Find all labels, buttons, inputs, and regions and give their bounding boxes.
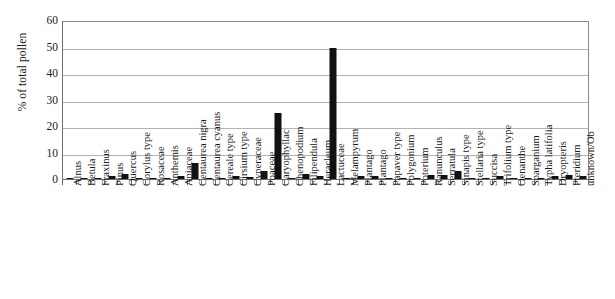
x-axis-label: Cereale type: [225, 133, 236, 186]
x-axis-label: Plantago: [378, 149, 389, 186]
x-axis-label: Polygonium: [406, 135, 417, 186]
x-axis-label: Poaceae: [267, 152, 278, 186]
x-axis-label: Succisa: [489, 154, 500, 186]
x-axis-label: Cyperaceae: [253, 137, 264, 186]
x-axis-label: Sparganium: [531, 135, 542, 186]
y-tick-label: 60: [30, 15, 58, 27]
y-tick-label: 20: [30, 121, 58, 133]
x-axis-label: Fraxinus: [101, 149, 112, 186]
y-tick-label: 40: [30, 68, 58, 80]
y-tick-label: 50: [30, 42, 58, 54]
x-axis-label: Quercus: [128, 151, 139, 186]
x-axis-label: Lactuceae: [336, 143, 347, 186]
y-tick-label: 0: [30, 174, 58, 186]
x-axis-label: Pteridium: [572, 145, 583, 186]
x-axis-label: unknown/Ob: [586, 131, 597, 186]
bar-slot: [77, 22, 91, 179]
y-tick-label: 10: [30, 148, 58, 160]
x-axis-label: Dryopteris: [558, 141, 569, 186]
x-axis-label: Stellaria type: [475, 130, 486, 186]
x-axis-label: Melampyrum: [350, 129, 361, 186]
x-axis-label: Ranunculus: [434, 136, 445, 186]
x-axis-label: Filipendula: [309, 138, 320, 186]
x-axis-label: Alnus: [73, 161, 84, 186]
x-axis-label: Typha latifolia: [544, 125, 555, 186]
x-axis-label: Centaurea cyanus: [212, 112, 223, 186]
x-axis-category-labels: AlnusBetulaFraxinusPinusQuercusCorylus t…: [62, 186, 589, 296]
pollen-percentage-bar-chart: % of total pollen 6050403020100 AlnusBet…: [0, 0, 615, 299]
x-axis-label: Plantago: [364, 149, 375, 186]
x-axis-label: Corylus type: [142, 132, 153, 186]
x-axis-label: Betula: [87, 159, 98, 186]
y-axis-tick-labels: 6050403020100: [30, 21, 58, 180]
x-axis-label: Centaurea nigra: [198, 119, 209, 186]
x-axis-label: Anthemis: [170, 145, 181, 186]
x-axis-label: Serratula: [447, 148, 458, 186]
bar-slot: [63, 22, 77, 179]
x-axis-label: Pinus: [115, 163, 126, 186]
x-axis-label: Caryophyllac: [281, 129, 292, 186]
x-axis-label: Oenanthe: [517, 146, 528, 186]
x-axis-label: Trifolium type: [503, 125, 514, 186]
x-axis-label: Sinapis type: [461, 134, 472, 186]
x-axis-label: Poterium: [420, 148, 431, 187]
x-axis-label: Rosaceae: [156, 146, 167, 186]
x-axis-label: Chenopodium: [295, 127, 306, 187]
x-axis-label: Apiaceae: [184, 147, 195, 186]
y-tick-label: 30: [30, 95, 58, 107]
x-axis-label: Heracleum: [323, 140, 334, 186]
x-axis-label: Papaver type: [392, 131, 403, 186]
x-tick: [62, 180, 63, 185]
x-axis-label: Cirsium type: [239, 131, 250, 186]
